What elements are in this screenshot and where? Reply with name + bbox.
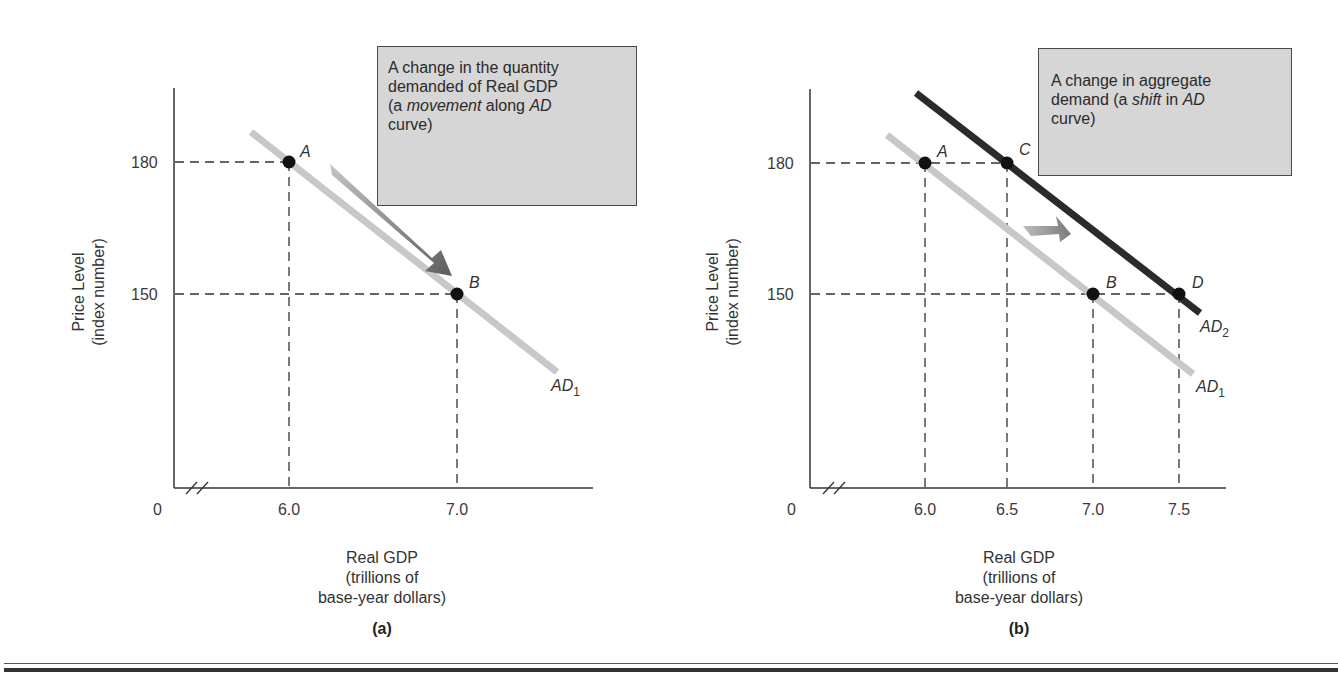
note-b-line2: demand (a shift in AD <box>1051 90 1283 109</box>
point-b <box>451 288 464 301</box>
note-a-line2: demanded of Real GDP <box>388 77 628 96</box>
ad1-label: AD1 <box>550 377 580 399</box>
note-b-line3: curve) <box>1051 109 1283 128</box>
note-box-b: A change in aggregate demand (a shift in… <box>1038 48 1292 176</box>
point-a-label: A <box>936 143 948 160</box>
svg-text:(index number): (index number) <box>90 238 107 346</box>
point-d <box>1173 288 1186 301</box>
point-d-label: D <box>1192 274 1204 291</box>
y-tick-150: 150 <box>767 286 794 303</box>
point-b <box>1087 288 1100 301</box>
svg-text:base-year dollars): base-year dollars) <box>955 589 1083 606</box>
y-tick-150: 150 <box>131 286 158 303</box>
svg-text:Real GDP: Real GDP <box>346 549 418 566</box>
point-a-label: A <box>299 143 311 160</box>
note-a-line4: curve) <box>388 115 628 134</box>
svg-text:(trillions of: (trillions of <box>346 569 419 586</box>
point-c <box>1001 157 1014 170</box>
point-c-label: C <box>1019 141 1031 158</box>
guide-lines <box>811 163 1179 488</box>
point-a <box>919 157 932 170</box>
x-axis-title: Real GDP (trillions of base-year dollars… <box>318 549 446 606</box>
point-b-label: B <box>1106 274 1117 291</box>
y-tick-180: 180 <box>131 154 158 171</box>
x-tick-6-0: 6.0 <box>914 501 936 518</box>
bottom-rule-thick <box>4 668 1338 672</box>
svg-text:Price Level: Price Level <box>704 252 721 331</box>
x-tick-6-5: 6.5 <box>996 501 1018 518</box>
svg-text:Real GDP: Real GDP <box>983 549 1055 566</box>
note-b-line1: A change in aggregate <box>1051 71 1283 90</box>
svg-text:Price Level: Price Level <box>70 252 87 331</box>
point-a <box>283 156 296 169</box>
y-axis-title: Price Level (index number) <box>704 238 741 346</box>
x-tick-7-5: 7.5 <box>1168 501 1190 518</box>
ad2-label: AD2 <box>1199 318 1229 340</box>
ad1-label: AD1 <box>1195 378 1225 400</box>
x-tick-7-0: 7.0 <box>1082 501 1104 518</box>
origin-label: 0 <box>787 501 796 518</box>
guide-lines <box>175 162 457 488</box>
y-tick-180: 180 <box>767 155 794 172</box>
svg-text:(index number): (index number) <box>724 238 741 346</box>
panel-b-label: (b) <box>1009 620 1029 637</box>
bottom-rule-thin <box>4 663 1338 664</box>
y-axis-title: Price Level (index number) <box>70 238 107 346</box>
shift-arrow-icon <box>1023 216 1071 242</box>
x-axis-title: Real GDP (trillions of base-year dollars… <box>955 549 1083 606</box>
note-a-line3: (a movement along AD <box>388 96 628 115</box>
svg-text:(trillions of: (trillions of <box>983 569 1056 586</box>
origin-label: 0 <box>153 501 162 518</box>
svg-text:base-year dollars): base-year dollars) <box>318 589 446 606</box>
x-tick-7-0: 7.0 <box>446 501 468 518</box>
note-box-a: A change in the quantity demanded of Rea… <box>377 46 637 206</box>
panel-a-label: (a) <box>372 620 392 637</box>
x-tick-6-0: 6.0 <box>278 501 300 518</box>
note-a-line1: A change in the quantity <box>388 58 628 77</box>
point-b-label: B <box>469 274 480 291</box>
